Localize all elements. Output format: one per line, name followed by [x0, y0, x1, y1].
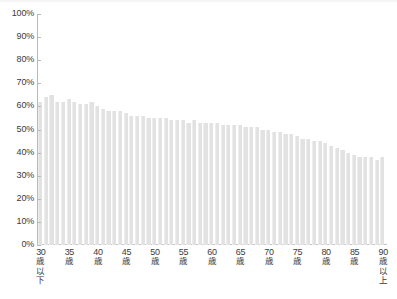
bar: [346, 153, 350, 245]
bar: [306, 139, 310, 245]
bar: [129, 116, 133, 245]
x-axis-tick-label: 50歳: [149, 247, 161, 267]
bar: [198, 123, 202, 245]
bar-chart: 100%90%80%70%60%50%40%30%20%10%0% 30歳以下3…: [0, 0, 397, 299]
bar: [243, 127, 247, 245]
bar: [55, 102, 59, 245]
x-axis-tick-label-char: 歳: [263, 257, 275, 267]
bar: [95, 106, 99, 245]
y-axis-tick: [37, 83, 41, 84]
bar: [221, 125, 225, 245]
x-axis-labels: 30歳以下35歳40歳45歳50歳55歳60歳65歳70歳75歳80歳85歳90…: [0, 247, 397, 299]
x-axis-tick-label: 55歳: [177, 247, 189, 267]
y-axis-tick: [37, 222, 41, 223]
y-axis-tick: [37, 153, 41, 154]
x-axis-tick-label-char: 歳: [320, 257, 332, 267]
x-axis-tick-label-char: 上: [377, 276, 389, 286]
x-axis-tick-label: 30歳以下: [35, 247, 47, 286]
x-axis-tick-label: 85歳: [349, 247, 361, 267]
y-axis-tick-label: 100%: [0, 9, 34, 18]
bar: [101, 109, 105, 245]
y-axis-tick: [37, 14, 41, 15]
x-axis-tick-label-char: 歳: [177, 257, 189, 267]
y-axis-tick-label: 50%: [0, 125, 34, 134]
bar: [89, 102, 93, 245]
y-axis-tick: [37, 245, 41, 246]
y-axis-tick-label: 60%: [0, 101, 34, 110]
y-axis-tick: [37, 199, 41, 200]
bar: [323, 143, 327, 245]
bar: [278, 132, 282, 245]
bar: [84, 104, 88, 245]
bar: [215, 123, 219, 245]
x-axis-tick-label-char: 下: [35, 276, 47, 286]
y-axis-tick-label: 20%: [0, 194, 34, 203]
bar: [375, 160, 379, 245]
bar: [175, 120, 179, 245]
bar: [78, 104, 82, 245]
y-axis-tick: [37, 176, 41, 177]
bar: [369, 157, 373, 245]
x-axis-tick-label: 45歳: [120, 247, 132, 267]
bar: [266, 130, 270, 246]
x-axis-tick-label-char: 歳: [206, 257, 218, 267]
bar: [146, 118, 150, 245]
bar: [158, 118, 162, 245]
bar: [49, 95, 53, 245]
top-edge-strip: [0, 0, 397, 2]
x-axis-tick-label: 60歳: [206, 247, 218, 267]
bar: [186, 123, 190, 245]
bar: [106, 111, 110, 245]
bar: [289, 134, 293, 245]
x-axis-tick-label: 40歳: [92, 247, 104, 267]
bar: [380, 157, 384, 245]
y-axis-tick: [37, 106, 41, 107]
bar: [312, 141, 316, 245]
bar: [72, 102, 76, 245]
x-axis-tick-label: 35歳: [63, 247, 75, 267]
y-axis-tick-label: 90%: [0, 32, 34, 41]
bar: [141, 116, 145, 245]
y-axis-tick: [37, 37, 41, 38]
bar: [61, 102, 65, 245]
plot-area: [38, 14, 386, 245]
y-axis-tick: [37, 60, 41, 61]
bar: [295, 136, 299, 245]
bar: [181, 120, 185, 245]
bar: [318, 141, 322, 245]
bar: [124, 113, 128, 245]
x-axis-tick-label-char: 歳: [63, 257, 75, 267]
x-axis-tick-label: 70歳: [263, 247, 275, 267]
x-axis-tick-label: 65歳: [235, 247, 247, 267]
bar: [357, 157, 361, 245]
y-axis-tick-label: 40%: [0, 148, 34, 157]
bar: [112, 111, 116, 245]
x-axis-tick-label: 90歳以上: [377, 247, 389, 286]
bar: [192, 120, 196, 245]
bar: [209, 123, 213, 245]
bar: [164, 118, 168, 245]
bar: [260, 130, 264, 246]
bar: [38, 102, 42, 245]
x-axis-tick-label-char: 歳: [292, 257, 304, 267]
x-axis-tick-label-char: 歳: [92, 257, 104, 267]
y-axis-tick-label: 80%: [0, 55, 34, 64]
bar: [283, 134, 287, 245]
x-axis-tick-label-char: 歳: [235, 257, 247, 267]
bar: [335, 148, 339, 245]
bar: [352, 155, 356, 245]
x-axis-tick-label: 75歳: [292, 247, 304, 267]
y-axis-tick-label: 10%: [0, 217, 34, 226]
bar: [363, 157, 367, 245]
bar: [300, 139, 304, 245]
bar: [169, 120, 173, 245]
bar: [232, 125, 236, 245]
bar: [238, 125, 242, 245]
y-axis-tick: [37, 130, 41, 131]
x-axis-tick-label-char: 歳: [120, 257, 132, 267]
x-axis-tick-label-char: 歳: [349, 257, 361, 267]
bar: [329, 146, 333, 245]
bar: [255, 127, 259, 245]
bar: [249, 127, 253, 245]
bar: [340, 150, 344, 245]
